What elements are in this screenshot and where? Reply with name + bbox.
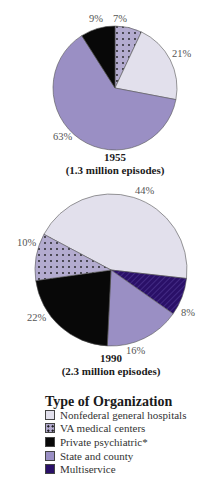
swatch-va-icon: [45, 423, 55, 433]
pie1-label-va: 7%: [113, 13, 127, 24]
pie1-episodes: (1.3 million episodes): [66, 164, 165, 177]
swatch-private-icon: [45, 437, 55, 447]
pie2-episodes: (2.3 million episodes): [62, 365, 161, 378]
legend-item-va: VA medical centers: [45, 422, 186, 436]
pie1-year: 1955: [104, 151, 127, 163]
pie2-label-private: 22%: [27, 312, 47, 323]
legend-label: Nonfederal general hospitals: [60, 409, 186, 421]
legend-label: Private psychiatric*: [60, 436, 148, 448]
legend-item-multiservice: Multiservice: [45, 462, 186, 476]
pie2-label-state: 16%: [126, 345, 146, 356]
legend-label: State and county: [60, 450, 133, 462]
legend-label: VA medical centers: [60, 422, 145, 434]
swatch-state-icon: [45, 451, 55, 461]
pie-chart-1990: [35, 194, 187, 346]
swatch-nonfederal-icon: [45, 410, 55, 420]
swatch-multiservice-icon: [45, 464, 55, 474]
legend: Nonfederal general hospitals VA medical …: [45, 408, 186, 476]
pie2-label-va: 10%: [17, 237, 37, 248]
pie1-label-private: 9%: [89, 13, 103, 24]
pie-slice: [36, 270, 111, 346]
pie2-label-multiservice: 8%: [181, 307, 195, 318]
pie1-label-nonfederal: 21%: [172, 48, 192, 59]
legend-label: Multiservice: [60, 463, 116, 475]
pie2-label-nonfederal: 44%: [135, 185, 155, 196]
pie2-year: 1990: [100, 352, 123, 364]
legend-item-private: Private psychiatric*: [45, 435, 186, 449]
pie1-label-state: 63%: [53, 131, 73, 142]
legend-item-nonfederal: Nonfederal general hospitals: [45, 408, 186, 422]
legend-item-state: State and county: [45, 449, 186, 463]
